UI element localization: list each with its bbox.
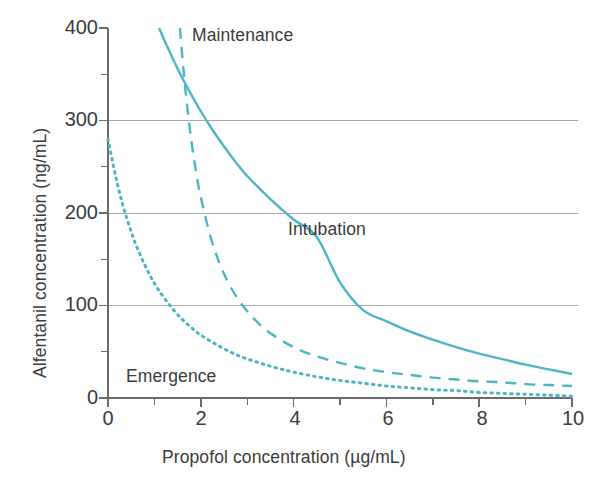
curve-label-intubation: Intubation [288, 219, 366, 240]
curve-label-emergence: Emergence [126, 366, 216, 387]
curve-label-maintenance: Maintenance [192, 25, 293, 46]
alfentanil-propofol-isobologram-figure: Alfentanil concentration (ng/mL) Propofo… [0, 0, 611, 488]
curve-emergence [108, 139, 572, 396]
y-tick-label-100: 100 [40, 293, 98, 316]
gridlines [108, 121, 578, 306]
data-curves [108, 28, 572, 396]
curve-maintenance [180, 28, 572, 386]
x-axis-title: Propofol concentration (µg/mL) [162, 447, 406, 468]
curve-intubation [159, 28, 572, 374]
x-tick-label-4: 4 [270, 407, 320, 430]
x-tick-label-6: 6 [363, 407, 413, 430]
y-tick-label-200: 200 [40, 201, 98, 224]
x-tick-label-10: 10 [548, 407, 598, 430]
x-tick-label-0: 0 [83, 407, 133, 430]
y-axis-title: Alfentanil concentration (ng/mL) [30, 128, 51, 378]
axis-ticks [99, 28, 572, 407]
x-tick-label-2: 2 [176, 407, 226, 430]
y-tick-label-300: 300 [40, 108, 98, 131]
y-tick-label-400: 400 [40, 16, 98, 39]
y-tick-label-0: 0 [40, 386, 98, 409]
x-tick-label-8: 8 [457, 407, 507, 430]
